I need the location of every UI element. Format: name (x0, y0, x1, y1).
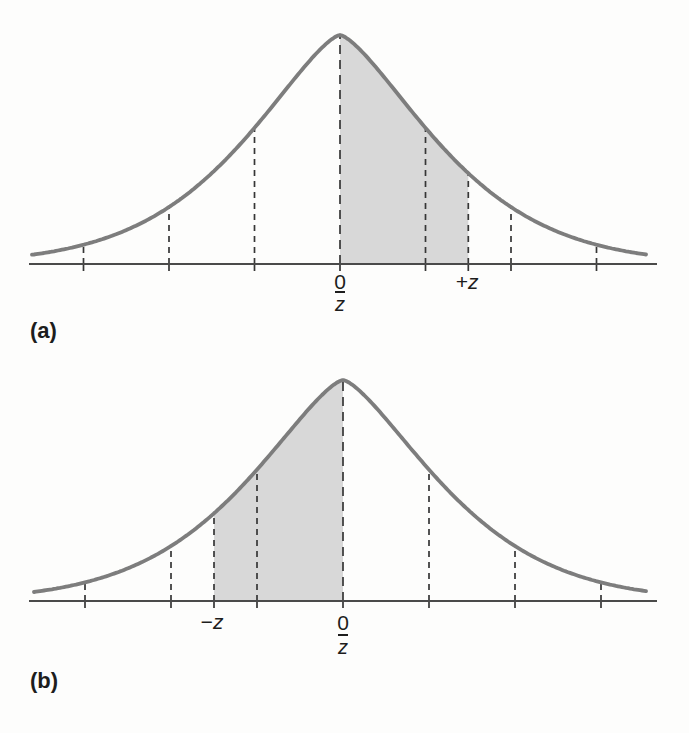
shaded-area (214, 380, 343, 601)
panel-b-zero-label: 0 (337, 612, 349, 633)
bell-curve (32, 35, 646, 255)
panel-b-caption: (b) (30, 670, 58, 692)
panel-a-z-bar-label: z (335, 294, 345, 314)
panel-a-zero-label: 0 (334, 271, 346, 292)
panel-b-z-bar-label: z (338, 637, 348, 657)
panel-a-group (29, 35, 657, 271)
panel-a-plus-z-label: +z (456, 271, 479, 292)
normal-curve-figure: 0 +z z (a) −z 0 z (b) (0, 0, 689, 733)
panel-b-group (29, 380, 657, 608)
shaded-area (340, 35, 468, 264)
panel-b-minus-z-label: −z (201, 611, 224, 632)
panel-a-caption: (a) (30, 320, 57, 342)
